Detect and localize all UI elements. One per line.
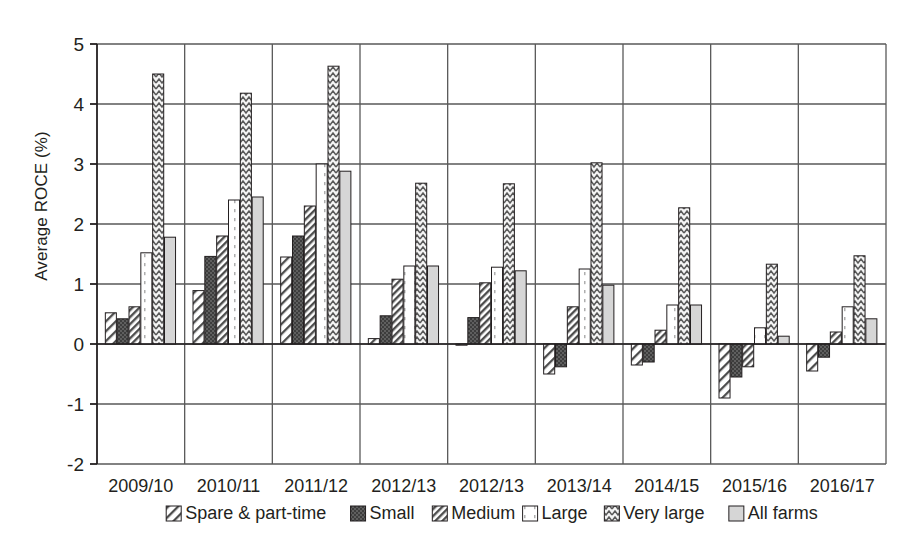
bar [165, 237, 176, 344]
bar [731, 344, 742, 377]
bar [655, 330, 666, 344]
bar [807, 344, 818, 371]
x-axis-tick-label: 2012/13 [371, 476, 436, 496]
bar [579, 269, 590, 344]
bar [819, 344, 830, 357]
y-axis-tick-label: 1 [73, 274, 84, 295]
plot-background [97, 44, 886, 464]
legend-item: Small [351, 503, 415, 523]
bar [392, 279, 403, 344]
bar [229, 200, 240, 344]
bar [380, 316, 391, 344]
y-axis-tick-label: -1 [67, 394, 84, 415]
bar [404, 266, 415, 344]
legend-item: All farms [729, 503, 818, 523]
y-axis-tick-label: 2 [73, 214, 84, 235]
bar [416, 183, 427, 344]
bar [193, 291, 204, 344]
bar [105, 313, 116, 344]
bar [252, 197, 263, 344]
x-axis-tick-labels: 2009/102010/112011/122012/132012/132013/… [108, 476, 874, 496]
legend-label: Very large [623, 503, 704, 523]
chart-container: Average ROCE (%) [0, 0, 903, 551]
bar [153, 74, 164, 344]
bar [755, 328, 766, 344]
x-axis-tick-label: 2013/14 [547, 476, 612, 496]
bar [480, 283, 491, 344]
y-axis-tick-labels: -2-1012345 [67, 34, 84, 475]
bar [205, 256, 216, 344]
bar [468, 318, 479, 344]
chart-legend: Spare & part-timeSmallMediumLargeVery la… [166, 503, 818, 523]
y-axis-title: Average ROCE (%) [32, 56, 52, 356]
plot-area [97, 44, 886, 464]
bar [567, 307, 578, 344]
bar [691, 305, 702, 344]
roce-bar-chart: -2-1012345 2009/102010/112011/122012/132… [0, 0, 903, 551]
legend-item: Very large [604, 503, 704, 523]
legend-swatch-icon [523, 506, 538, 521]
bar [643, 344, 654, 362]
y-axis-tick-label: -2 [67, 454, 84, 475]
legend-swatch-icon [432, 506, 447, 521]
bar [281, 257, 292, 344]
legend-label: Small [370, 503, 415, 523]
bar [316, 164, 327, 344]
bar [842, 307, 853, 344]
bar [340, 171, 351, 344]
y-axis-tick-label: 0 [73, 334, 84, 355]
legend-swatch-icon [351, 506, 366, 521]
legend-label: Spare & part-time [185, 503, 326, 523]
y-axis-tick-label: 3 [73, 154, 84, 175]
bar [129, 307, 140, 344]
bar [866, 319, 877, 344]
legend-swatch-icon [604, 506, 619, 521]
bar [293, 236, 304, 344]
x-axis-tick-label: 2014/15 [634, 476, 699, 496]
bar [240, 93, 251, 344]
bar [766, 264, 777, 344]
bar [328, 66, 339, 344]
bar [141, 253, 152, 344]
bar [556, 344, 567, 367]
x-axis-tick-label: 2010/11 [197, 476, 261, 496]
x-axis-tick-label: 2015/16 [722, 476, 787, 496]
bar [117, 319, 128, 344]
bar [515, 271, 526, 344]
bar [679, 208, 690, 344]
bar [830, 332, 841, 344]
legend-label: All farms [748, 503, 818, 523]
bar [503, 184, 514, 344]
bar [631, 344, 642, 365]
legend-item: Spare & part-time [166, 503, 326, 523]
bar [544, 344, 555, 374]
legend-label: Medium [451, 503, 515, 523]
legend-item: Medium [432, 503, 515, 523]
legend-swatch-icon [166, 506, 181, 521]
legend-swatch-icon [729, 506, 744, 521]
legend-item: Large [523, 503, 588, 523]
legend-label: Large [542, 503, 588, 523]
x-axis-tick-label: 2012/13 [459, 476, 524, 496]
bar [217, 236, 228, 344]
bar [368, 339, 379, 344]
bar [428, 266, 439, 344]
x-axis-tick-label: 2009/10 [108, 476, 173, 496]
x-axis-tick-label: 2016/17 [810, 476, 875, 496]
y-axis-tick-label: 5 [73, 34, 84, 55]
bar [854, 256, 865, 344]
bar [304, 206, 315, 344]
y-axis-tick-label: 4 [73, 94, 84, 115]
x-axis-tick-label: 2011/12 [284, 476, 348, 496]
bar [743, 344, 754, 367]
bar [492, 267, 503, 344]
bar [591, 163, 602, 344]
bar [603, 285, 614, 344]
bar [719, 344, 730, 398]
bar [667, 305, 678, 344]
bar [778, 336, 789, 344]
